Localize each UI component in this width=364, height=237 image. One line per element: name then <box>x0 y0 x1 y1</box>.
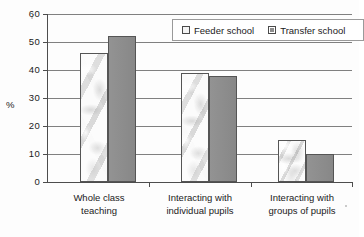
x-axis-label-line1: Interacting with <box>270 192 334 203</box>
bar-transfer-interacting-groups-of-pupils <box>306 154 334 182</box>
bar-transfer-whole-class-teaching <box>108 36 136 182</box>
x-axis-label-line2: individual pupils <box>150 205 250 218</box>
y-tick-0 <box>43 182 48 183</box>
y-axis-label-30: 30 <box>14 92 40 103</box>
x-axis-label-line2: teaching <box>50 205 148 218</box>
x-axis-label-line2: groups of pupils <box>252 205 352 218</box>
legend-swatch-icon-transfer <box>268 26 276 34</box>
y-axis-label-50: 50 <box>14 36 40 47</box>
y-tick-60 <box>43 14 48 15</box>
legend: Feeder school Transfer school <box>172 19 364 41</box>
bar-transfer-interacting-individual-pupils <box>209 76 237 182</box>
x-axis-line <box>47 182 353 183</box>
legend-label-transfer: Transfer school <box>280 25 345 36</box>
bar-feeder-interacting-groups-of-pupils <box>278 140 306 182</box>
x-axis-label-line1: Interacting with <box>168 192 232 203</box>
gridline-60 <box>47 14 352 15</box>
y-axis-label-40: 40 <box>14 64 40 75</box>
x-axis-label-interacting-individual-pupils: Interacting with individual pupils <box>150 192 250 217</box>
x-tick-separator-3 <box>352 182 353 187</box>
y-axis-label-20: 20 <box>14 120 40 131</box>
legend-item-transfer-school: Transfer school <box>268 25 345 36</box>
x-axis-label-line1: Whole class <box>73 192 124 203</box>
y-tick-40 <box>43 70 48 71</box>
x-axis-label-interacting-groups-of-pupils: Interacting with groups of pupils <box>252 192 352 217</box>
y-tick-30 <box>43 98 48 99</box>
y-axis-label-0: 0 <box>14 176 40 187</box>
gridline-50 <box>47 42 352 43</box>
y-axis-label-60: 60 <box>14 8 40 19</box>
legend-item-feeder-school: Feeder school <box>182 25 254 36</box>
x-tick-separator-2 <box>251 182 252 187</box>
legend-label-feeder: Feeder school <box>194 25 254 36</box>
y-axis-label-10: 10 <box>14 148 40 159</box>
y-tick-20 <box>43 126 48 127</box>
y-tick-50 <box>43 42 48 43</box>
x-axis-label-whole-class-teaching: Whole class teaching <box>50 192 148 217</box>
y-tick-10 <box>43 154 48 155</box>
bar-feeder-whole-class-teaching <box>80 53 108 182</box>
x-tick-separator-1 <box>149 182 150 187</box>
bar-feeder-interacting-individual-pupils <box>181 73 209 182</box>
legend-swatch-icon-feeder <box>182 26 190 34</box>
